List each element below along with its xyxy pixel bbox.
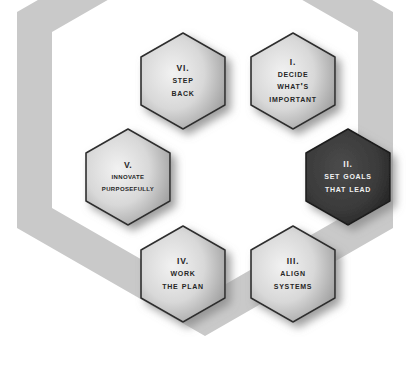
hexagon-shape <box>251 226 335 322</box>
hexagon-shape <box>86 129 170 225</box>
hexagon-shape <box>251 33 335 129</box>
hexagon-step-4[interactable]: IV.Workthe Plan <box>141 226 225 322</box>
hexagon-step-2[interactable]: II.Set GoalsThat Lead <box>306 129 390 225</box>
hexagon-shape <box>141 226 225 322</box>
hexagon-step-1[interactable]: I.DecideWhat'sImportant <box>251 33 335 129</box>
diagram-canvas: I.DecideWhat'sImportantII.Set GoalsThat … <box>0 0 409 391</box>
hexagon-step-6[interactable]: VI.Stepback <box>141 33 225 129</box>
hexagon-step-3[interactable]: III.AlignSystems <box>251 226 335 322</box>
hexagon-shape <box>141 33 225 129</box>
hexagon-step-5[interactable]: V.InnovatePurposefully <box>86 129 170 225</box>
hexagon-shape <box>306 129 390 225</box>
